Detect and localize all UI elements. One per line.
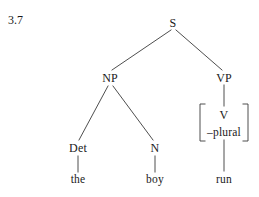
terminal-run: run	[216, 174, 232, 186]
node-n: N	[151, 142, 160, 154]
terminal-boy: boy	[146, 174, 164, 186]
node-v: V	[220, 109, 229, 121]
terminal-the: the	[71, 174, 86, 186]
figure-canvas: 3.7 S NP VP Det N V –plural the boy run	[0, 0, 259, 197]
node-np: NP	[102, 72, 118, 84]
node-s: S	[170, 17, 177, 29]
node-det: Det	[69, 142, 87, 154]
tree-lines	[0, 0, 259, 197]
node-vp: VP	[216, 72, 232, 84]
feature-minus-plural: –plural	[207, 127, 241, 139]
